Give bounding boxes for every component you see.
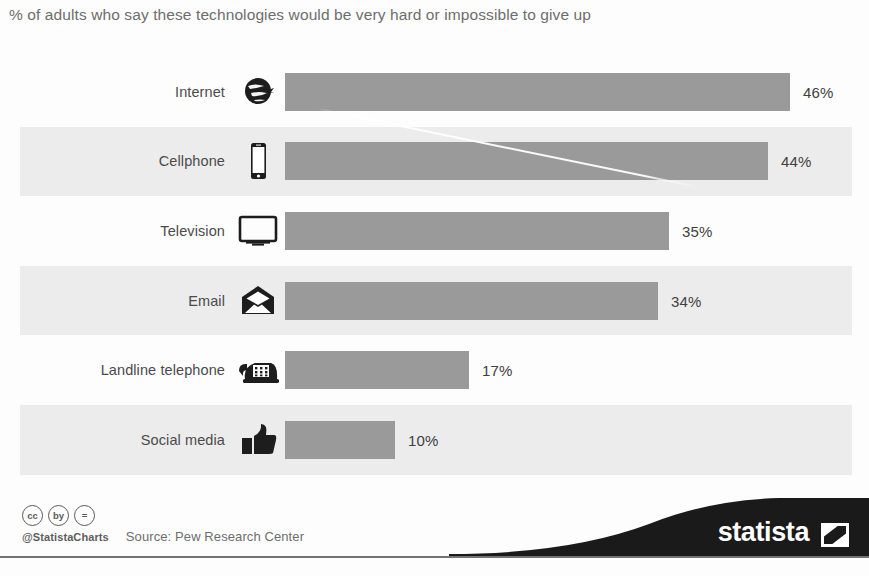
category-label-landline-telephone: Landline telephone: [20, 335, 225, 405]
statista-slash-glyph: [824, 526, 846, 544]
bar-social-media: [285, 421, 395, 459]
smartphone-icon: [232, 127, 284, 197]
chart-row-television: Television 35%: [20, 196, 852, 266]
chart-row-internet: Internet 46%: [20, 57, 852, 127]
category-label-social-media: Social media: [20, 405, 225, 475]
bar-cellphone: [285, 142, 768, 180]
chart-row-cellphone: Cellphone 44%: [20, 127, 852, 197]
cc-attribution-icon: by: [48, 505, 69, 526]
chart-subtitle: % of adults who say these technologies w…: [9, 6, 849, 24]
bar-internet: [285, 73, 790, 111]
bar-value-cellphone: 44%: [781, 153, 812, 170]
envelope-icon: [232, 266, 284, 336]
category-label-internet: Internet: [20, 57, 225, 127]
cc-license-icon: cc: [22, 505, 43, 526]
bar-chart-plot: Internet 46% Cellphone: [20, 57, 852, 475]
bar-landline-telephone: [285, 351, 469, 389]
category-label-cellphone: Cellphone: [20, 127, 225, 197]
infographic-canvas: % of adults who say these technologies w…: [0, 0, 869, 576]
bar-value-landline-telephone: 17%: [482, 362, 513, 379]
category-label-television: Television: [20, 196, 225, 266]
bar-television: [285, 212, 669, 250]
bar-value-internet: 46%: [803, 83, 834, 100]
bar-value-television: 35%: [682, 222, 713, 239]
statista-logo-mark: [821, 523, 849, 547]
chart-row-email: Email 34%: [20, 266, 852, 336]
category-label-email: Email: [20, 266, 225, 336]
globe-icon: [232, 57, 284, 127]
chart-row-landline-telephone: Landline telephone 17%: [20, 335, 852, 405]
bar-email: [285, 282, 658, 320]
television-icon: [232, 196, 284, 266]
chart-row-social-media: Social media 10%: [20, 405, 852, 475]
bar-value-social-media: 10%: [408, 431, 439, 448]
statista-handle: @StatistaCharts: [22, 531, 109, 543]
source-text: Source: Pew Research Center: [126, 529, 304, 544]
thumbs-up-icon: [232, 405, 284, 475]
bar-value-email: 34%: [671, 292, 702, 309]
landline-phone-icon: [232, 335, 284, 405]
statista-wordmark: statista: [718, 517, 809, 548]
footer-divider: [0, 556, 869, 558]
cc-no-derivatives-icon: =: [74, 505, 95, 526]
